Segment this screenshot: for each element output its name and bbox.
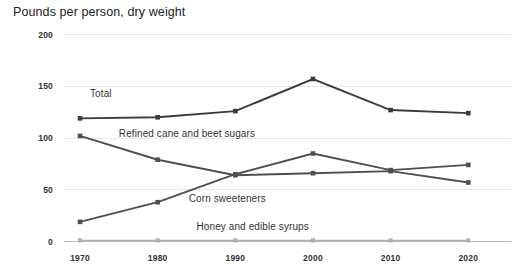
data-point-marker — [311, 238, 315, 242]
series-inline-label: Refined cane and beet sugars — [119, 128, 255, 139]
x-axis-tick-label: 1970 — [70, 253, 90, 263]
data-point-marker — [311, 171, 316, 176]
x-axis-tick-label: 1990 — [225, 253, 245, 263]
x-axis-labels-group: 197019801990200020102020 — [70, 253, 478, 263]
line-chart-plot: 050100150200 197019801990200020102020 To… — [0, 0, 521, 273]
y-axis-tick-label: 0 — [48, 237, 53, 247]
x-axis-tick-label: 2000 — [303, 253, 323, 263]
series-line-0 — [80, 79, 468, 118]
data-point-marker — [466, 180, 471, 185]
data-point-marker — [466, 111, 471, 116]
y-axis-tick-label: 100 — [38, 133, 53, 143]
data-point-marker — [388, 168, 393, 173]
series-group — [80, 79, 468, 240]
data-point-marker — [155, 157, 160, 162]
y-axis-tick-label: 200 — [38, 30, 53, 40]
series-line-1 — [80, 136, 468, 183]
x-axis-tick-label: 2010 — [381, 253, 401, 263]
data-point-marker — [233, 238, 237, 242]
data-point-marker — [466, 163, 471, 168]
chart-container: Pounds per person, dry weight 0501001502… — [0, 0, 521, 273]
data-point-marker — [389, 238, 393, 242]
data-point-marker — [233, 172, 238, 177]
data-point-marker — [155, 115, 160, 120]
markers-group — [78, 77, 471, 243]
data-point-marker — [78, 134, 83, 139]
data-point-marker — [311, 77, 316, 82]
y-axis-tick-label: 50 — [43, 185, 53, 195]
data-point-marker — [466, 238, 470, 242]
series-inline-label: Honey and edible syrups — [196, 221, 308, 232]
y-axis-tick-label: 150 — [38, 81, 53, 91]
data-point-marker — [155, 200, 160, 205]
x-axis-tick-label: 2020 — [458, 253, 478, 263]
y-axis-labels-group: 050100150200 — [38, 30, 53, 247]
data-point-marker — [156, 238, 160, 242]
data-point-marker — [388, 108, 393, 113]
data-point-marker — [311, 151, 316, 156]
data-point-marker — [78, 116, 83, 121]
data-point-marker — [233, 109, 238, 114]
series-inline-label: Corn sweeteners — [189, 193, 266, 204]
x-axis-tick-label: 1980 — [148, 253, 168, 263]
series-line-2 — [80, 154, 468, 222]
data-point-marker — [78, 220, 83, 225]
data-point-marker — [78, 238, 82, 242]
series-inline-label: Total — [90, 88, 112, 99]
